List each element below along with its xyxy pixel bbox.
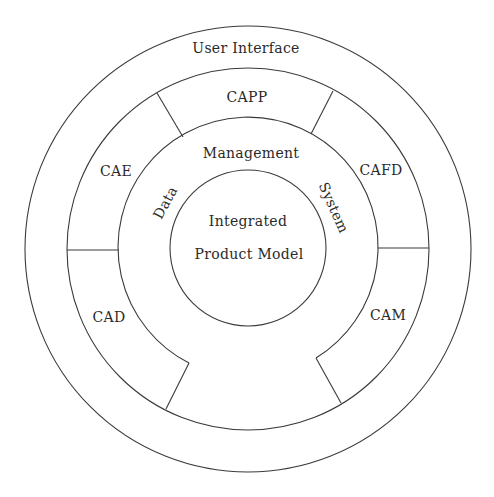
divider-cad-bottom	[166, 363, 189, 409]
user-interface-label: User Interface	[192, 40, 299, 56]
capp-label: CAPP	[227, 89, 268, 105]
cafd-label: CAFD	[360, 162, 403, 178]
core-label-line2: Product Model	[195, 246, 304, 262]
cad-label: CAD	[93, 309, 126, 325]
data-label: Data	[150, 183, 180, 221]
divider-cae-capp	[157, 93, 183, 137]
divider-capp-cafd	[311, 91, 333, 134]
architecture-diagram: User Interface CAPP CAE CAFD CAD CAM Man…	[0, 0, 494, 497]
management-label: Management	[203, 145, 300, 161]
core-label-line1: Integrated	[209, 213, 287, 229]
cae-label: CAE	[100, 163, 132, 179]
divider-cam-bottom	[316, 358, 341, 403]
cam-label: CAM	[370, 307, 406, 323]
system-label: System	[316, 180, 352, 236]
